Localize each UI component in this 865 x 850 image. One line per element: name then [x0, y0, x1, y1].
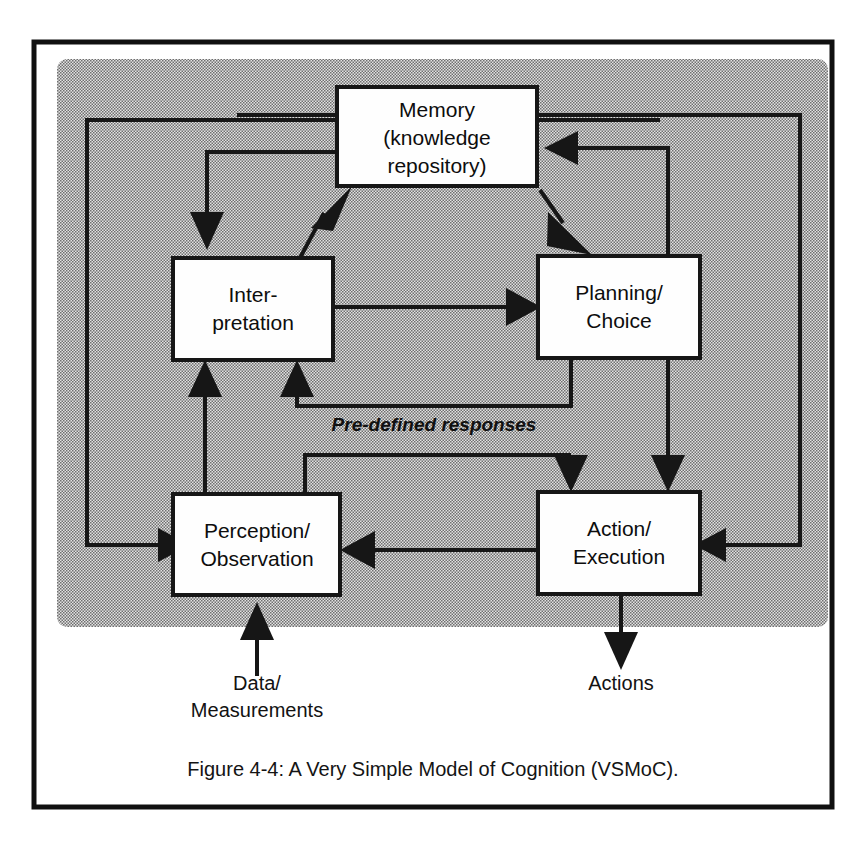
external-input-label: Data/ Measurements	[191, 672, 323, 721]
output-label-line1: Actions	[588, 672, 654, 694]
interpretation-label-line1: Inter-	[228, 283, 277, 306]
memory-label-line1: Memory	[399, 98, 475, 121]
external-output-label: Actions	[588, 672, 654, 694]
input-label-line1: Data/	[233, 672, 281, 694]
interpretation-box[interactable]	[173, 258, 333, 360]
planning-label-line2: Choice	[586, 309, 651, 332]
memory-label-line3: repository)	[387, 154, 486, 177]
figure-container: Memory (knowledge repository) Inter- pre…	[0, 0, 865, 850]
memory-label-line2: (knowledge	[383, 126, 490, 149]
action-label-line2: Execution	[573, 545, 665, 568]
node-action[interactable]: Action/ Execution	[538, 492, 700, 594]
action-label-line1: Action/	[587, 517, 651, 540]
node-planning[interactable]: Planning/ Choice	[538, 256, 700, 358]
planning-label-line1: Planning/	[575, 281, 663, 304]
node-memory[interactable]: Memory (knowledge repository)	[337, 87, 537, 186]
perception-label-line1: Perception/	[204, 519, 310, 542]
action-box[interactable]	[538, 492, 700, 594]
interpretation-label-line2: pretation	[212, 311, 294, 334]
figure-caption: Figure 4-4: A Very Simple Model of Cogni…	[187, 758, 678, 780]
planning-box[interactable]	[538, 256, 700, 358]
input-label-line2: Measurements	[191, 699, 323, 721]
pre-defined-responses-label: Pre-defined responses	[332, 414, 537, 435]
perception-label-line2: Observation	[200, 547, 313, 570]
node-perception[interactable]: Perception/ Observation	[173, 494, 340, 595]
node-interpretation[interactable]: Inter- pretation	[173, 258, 333, 360]
cognition-model-diagram: Memory (knowledge repository) Inter- pre…	[0, 0, 865, 850]
perception-box[interactable]	[173, 494, 340, 595]
arrowhead-action-to-output	[604, 632, 638, 670]
